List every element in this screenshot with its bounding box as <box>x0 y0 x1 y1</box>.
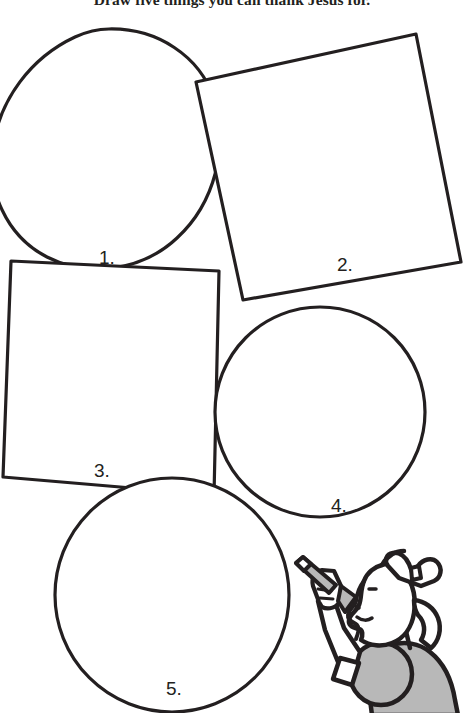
shape-1-number: 1. <box>99 248 115 267</box>
hair-bow-knot <box>411 566 421 580</box>
crayon-tip <box>296 557 311 571</box>
shape-1-circle[interactable] <box>0 29 220 269</box>
shape-4-number: 4. <box>331 496 347 515</box>
shape-4-circle[interactable] <box>215 307 425 517</box>
shape-2-square[interactable] <box>196 34 461 300</box>
worksheet-page: Draw five things you can thank Jesus for… <box>0 0 464 713</box>
girl-illustration <box>296 551 458 713</box>
shape-3-number: 3. <box>94 461 110 480</box>
worksheet-shapes <box>0 0 464 713</box>
sleeve-cuff <box>333 658 359 685</box>
shape-5-number: 5. <box>166 679 182 698</box>
shape-2-number: 2. <box>337 255 353 274</box>
shape-5-circle[interactable] <box>55 478 289 712</box>
hair-back <box>414 600 440 648</box>
shape-3-square[interactable] <box>3 261 219 495</box>
